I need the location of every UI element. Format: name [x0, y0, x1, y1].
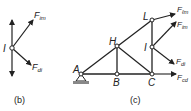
- f-lm-label: Fℓm: [177, 5, 189, 15]
- node-i: [10, 46, 14, 50]
- f-di-arrow-c: [152, 47, 174, 64]
- f-lm-arrow: [152, 14, 175, 20]
- label-c: C: [148, 77, 156, 88]
- f-cd-label: Fcd: [177, 73, 189, 83]
- label-a: A: [72, 64, 80, 75]
- node-i-label: I: [3, 43, 6, 54]
- f-di-arrow: [12, 48, 31, 65]
- node-c: [150, 72, 154, 76]
- figure-b: I Fim Fdi (b): [3, 10, 46, 105]
- f-im-arrow: [12, 20, 33, 48]
- node-l: [150, 18, 154, 22]
- f-im-label-c: Fim: [177, 20, 188, 30]
- node-b: [115, 72, 119, 76]
- f-di-label-c: Fdi: [176, 57, 186, 67]
- caption-c: (c): [130, 95, 141, 105]
- label-l: L: [143, 11, 149, 22]
- label-h: H: [109, 36, 117, 47]
- caption-b: (b): [14, 95, 25, 105]
- f-di-label: Fdi: [32, 62, 43, 73]
- label-i: I: [144, 42, 147, 53]
- node-i-c: [150, 45, 154, 49]
- truss-diagram: I Fim Fdi (b) A B C H I L Fℓm: [0, 0, 191, 111]
- label-b: B: [113, 77, 120, 88]
- f-im-label: Fim: [34, 10, 46, 21]
- figure-c: A B C H I L Fℓm Fim Fdi Fcd (c): [72, 5, 189, 105]
- f-im-arrow-c: [152, 22, 176, 47]
- ground-hatch: [73, 81, 89, 84]
